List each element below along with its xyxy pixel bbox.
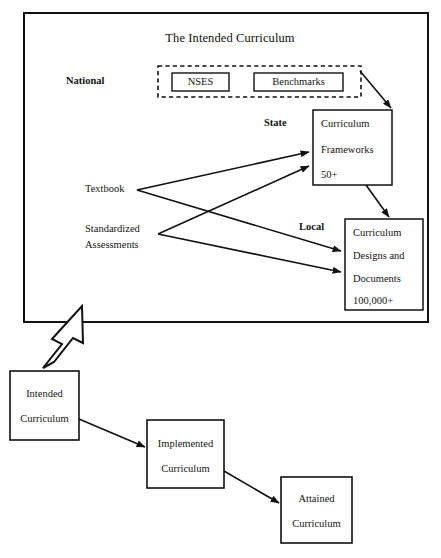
arrow-implemented-to-attained <box>224 471 279 503</box>
implemented-curriculum-box <box>147 420 224 488</box>
input-label-standardized-assessments-line-1: Standardized <box>85 224 140 235</box>
intended-curriculum-line-1: Intended <box>10 389 79 400</box>
arrow-assessments-to-frameworks <box>158 166 309 234</box>
curriculum-frameworks-count: 50+ <box>321 170 337 181</box>
arrow-textbook-to-frameworks <box>137 152 309 190</box>
input-label-textbook: Textbook <box>85 184 125 195</box>
arrow-national-to-state <box>360 71 391 108</box>
curriculum-frameworks-line-2: Frameworks <box>321 145 374 156</box>
tier-label-national: National <box>66 76 105 87</box>
implemented-curriculum-line-2: Curriculum <box>147 464 224 475</box>
arrow-intended-to-implemented <box>79 419 145 447</box>
arrow-state-to-local <box>366 185 389 217</box>
block-arrow-intended-to-panel <box>43 306 83 368</box>
benchmarks-box-label: Benchmarks <box>254 77 343 88</box>
curriculum-designs-line-2: Designs and <box>353 251 405 262</box>
attained-curriculum-line-2: Curriculum <box>281 519 352 530</box>
attained-curriculum-line-1: Attained <box>281 494 352 505</box>
intended-curriculum-box <box>10 371 79 440</box>
arrow-assessments-to-designs <box>158 234 341 272</box>
curriculum-designs-count: 100,000+ <box>353 296 393 307</box>
attained-curriculum-box <box>281 477 352 543</box>
intended-curriculum-line-2: Curriculum <box>10 414 79 425</box>
curriculum-designs-line-1: Curriculum <box>353 228 401 239</box>
implemented-curriculum-line-1: Implemented <box>147 439 224 450</box>
curriculum-designs-line-3: Documents <box>353 274 401 285</box>
curriculum-diagram-figure: The Intended Curriculum National State L… <box>0 0 441 558</box>
curriculum-frameworks-line-1: Curriculum <box>321 119 369 130</box>
input-label-standardized-assessments-line-2: Assessments <box>85 240 139 251</box>
tier-label-local: Local <box>299 222 324 233</box>
figure-title: The Intended Curriculum <box>150 31 310 46</box>
nses-box-label: NSES <box>172 77 229 88</box>
tier-label-state: State <box>264 118 287 129</box>
